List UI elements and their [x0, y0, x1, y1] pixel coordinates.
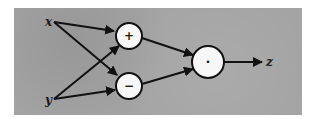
minus-icon: − [124, 79, 134, 93]
multiply-node: · [192, 46, 224, 78]
output-z-label: z [265, 55, 274, 69]
input-x-label: x [44, 15, 53, 29]
add-node: + [116, 23, 142, 49]
edge-add-to-mul [142, 38, 193, 55]
dot-icon: · [206, 54, 211, 69]
computation-graph: x y + − · z [0, 0, 312, 119]
subtract-node: − [116, 73, 142, 99]
edge-sub-to-mul [142, 69, 193, 84]
input-y-label: y [44, 93, 53, 107]
plus-icon: + [124, 29, 134, 43]
